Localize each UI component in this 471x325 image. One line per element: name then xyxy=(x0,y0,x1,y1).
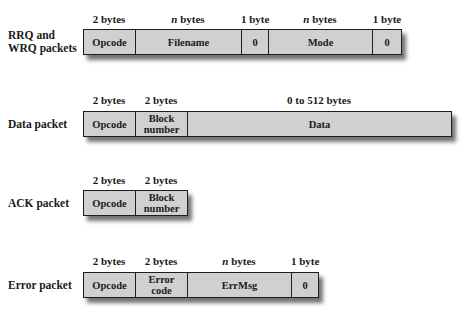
field-filename: Filename xyxy=(136,30,242,54)
field-text: number xyxy=(144,124,180,135)
field-errmsg: ErrMsg xyxy=(188,273,292,297)
size-label: n bytes xyxy=(187,254,291,268)
size-label: 1 byte xyxy=(291,254,319,268)
field-text: Block xyxy=(149,192,175,203)
field-block-number: Block number xyxy=(136,112,188,136)
field-opcode: Opcode xyxy=(84,191,136,215)
field-text: number xyxy=(144,203,180,214)
field-error-code: Error code xyxy=(136,273,188,297)
label-line: WRQ packets xyxy=(8,42,80,55)
size-label: 2 bytes xyxy=(83,12,135,26)
field-text: Error xyxy=(148,274,174,285)
packet-label: Data packet xyxy=(8,118,80,131)
size-row: 2 bytes n bytes 1 byte n bytes 1 byte xyxy=(83,12,403,26)
packet-label: Error packet xyxy=(8,279,80,292)
size-label: 0 to 512 bytes xyxy=(187,93,451,107)
size-label: 2 bytes xyxy=(83,173,135,187)
field-zero: 0 xyxy=(242,30,269,54)
label-line: RRQ and xyxy=(8,29,80,42)
field-block-number: Block number xyxy=(136,191,187,215)
size-label: 2 bytes xyxy=(135,173,187,187)
field-text: code xyxy=(151,285,171,296)
field-mode: Mode xyxy=(269,30,373,54)
field-text: Block xyxy=(149,113,175,124)
size-row: 2 bytes 2 bytes 0 to 512 bytes xyxy=(83,93,453,107)
packet-label: ACK packet xyxy=(8,197,80,210)
field-opcode: Opcode xyxy=(84,112,136,136)
field-zero: 0 xyxy=(292,273,318,297)
size-label: 2 bytes xyxy=(83,254,135,268)
size-row: 2 bytes 2 bytes xyxy=(83,173,189,187)
size-label: n bytes xyxy=(135,12,241,26)
field-opcode: Opcode xyxy=(84,30,136,54)
packet-label: RRQ and WRQ packets xyxy=(8,29,80,55)
field-opcode: Opcode xyxy=(84,273,136,297)
size-label: 1 byte xyxy=(372,12,402,26)
size-label: 2 bytes xyxy=(135,93,187,107)
size-label: 1 byte xyxy=(241,12,268,26)
size-label: 2 bytes xyxy=(83,93,135,107)
field-data: Data xyxy=(188,112,451,136)
size-label: 2 bytes xyxy=(135,254,187,268)
size-label: n bytes xyxy=(268,12,372,26)
size-row: 2 bytes 2 bytes n bytes 1 byte xyxy=(83,254,323,268)
field-zero: 0 xyxy=(373,30,401,54)
packet-box: Opcode Block number Data xyxy=(83,111,452,137)
packet-box: Opcode Error code ErrMsg 0 xyxy=(83,272,319,298)
packet-box: Opcode Filename 0 Mode 0 xyxy=(83,29,402,55)
packet-box: Opcode Block number xyxy=(83,190,188,216)
